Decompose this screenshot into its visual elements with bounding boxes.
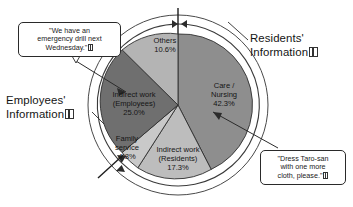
slice-label-indirect-work-residents: Indirect work (Residents) 17.3% — [140, 145, 216, 172]
slice-label-indirect-work-employees: Indirect work (Employees) 25.0% — [95, 90, 173, 117]
group-label-employees: Employees' Information — [6, 94, 74, 122]
tofu-glyph-icon — [88, 44, 93, 51]
slice-label-others: Others 10.6% — [138, 36, 192, 54]
tofu-glyph-icon — [323, 172, 328, 179]
callout-dress-taro-san[interactable]: "Dress Taro-san with one more cloth, ple… — [260, 150, 346, 185]
callout-emergency-drill[interactable]: "We have an emergency drill next Wednesd… — [18, 22, 121, 57]
tofu-glyph-icon — [309, 47, 318, 57]
callout-left-line3: Wednesday." — [22, 44, 117, 52]
group-label-residents: Residents' Information — [250, 32, 318, 60]
slice-label-care-nursing: Care / Nursing 42.3% — [194, 81, 254, 108]
callout-right-line3: cloth, please." — [264, 172, 342, 180]
tofu-glyph-icon — [65, 109, 74, 119]
group-label-residents-line2: Information — [250, 46, 318, 60]
group-label-employees-line2: Information — [6, 108, 74, 122]
figure-canvas: Others 10.6% Care / Nursing 42.3% Indire… — [0, 0, 353, 207]
left-callout-tail — [72, 56, 80, 63]
